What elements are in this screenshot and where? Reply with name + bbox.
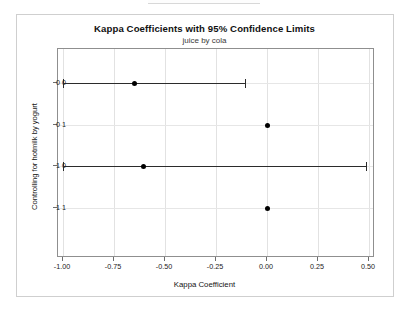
- estimate-marker: [265, 123, 270, 128]
- page-edge-artifact: [148, 0, 260, 4]
- y-axis-title: Controlling for hotmilk by yogurt: [30, 77, 39, 237]
- gridline-horizontal: [58, 208, 373, 209]
- x-tick-label: -0.75: [105, 262, 121, 271]
- gridline-vertical: [267, 49, 268, 256]
- gridline-horizontal: [58, 125, 373, 126]
- confidence-interval-line: [63, 166, 366, 167]
- gridline-vertical: [165, 49, 166, 256]
- x-tick-label: -1.00: [54, 262, 70, 271]
- figure-root: Kappa Coefficients with 95% Confidence L…: [0, 0, 409, 320]
- gridline-vertical: [216, 49, 217, 256]
- x-tick-mark: [113, 257, 114, 261]
- estimate-marker: [265, 206, 270, 211]
- x-tick-mark: [215, 257, 216, 261]
- estimate-marker: [132, 81, 137, 86]
- x-tick-mark: [368, 257, 369, 261]
- x-tick-label: 0.50: [361, 262, 375, 271]
- x-tick-label: -0.50: [156, 262, 172, 271]
- x-tick-label: 0.00: [259, 262, 273, 271]
- gridline-vertical: [369, 49, 370, 256]
- x-axis-title: Kappa Coefficient: [0, 280, 409, 289]
- x-tick-mark: [266, 257, 267, 261]
- x-tick-label: -0.25: [207, 262, 223, 271]
- gridline-vertical: [114, 49, 115, 256]
- chart-title: Kappa Coefficients with 95% Confidence L…: [0, 23, 409, 34]
- x-tick-mark: [164, 257, 165, 261]
- confidence-interval-line: [63, 83, 245, 84]
- chart-subtitle: juice by cola: [0, 36, 409, 45]
- plot-area: [57, 48, 374, 257]
- confidence-interval-cap: [366, 162, 367, 171]
- gridline-vertical: [318, 49, 319, 256]
- x-tick-mark: [62, 257, 63, 261]
- x-tick-mark: [317, 257, 318, 261]
- estimate-marker: [141, 164, 146, 169]
- confidence-interval-cap: [245, 79, 246, 88]
- x-tick-label: 0.25: [310, 262, 324, 271]
